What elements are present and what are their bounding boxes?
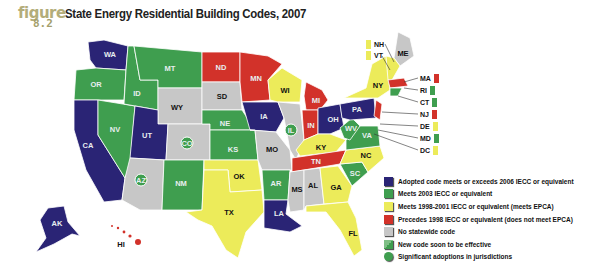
- callout-VT: VT: [366, 51, 383, 60]
- legend-item: Significant adoptions in jurisdictions: [384, 251, 574, 264]
- label-IA: IA: [260, 112, 268, 121]
- callout-MA: MA: [420, 74, 439, 83]
- label-NV: NV: [110, 125, 120, 134]
- label-SC: SC: [350, 169, 361, 178]
- label-HI: HI: [117, 240, 125, 249]
- label-IL: IL: [288, 126, 295, 135]
- swatch-icon: [384, 202, 393, 211]
- legend-item: Meets 1998-2001 IECC or equivalent (meet…: [384, 200, 574, 213]
- state-NY: [344, 56, 390, 98]
- label-AZ: AZ: [136, 176, 146, 185]
- callout-DE: DE: [420, 122, 438, 131]
- state-AK: [36, 206, 80, 252]
- label-WV: WV: [345, 124, 357, 133]
- label-FL: FL: [348, 229, 358, 238]
- label-MS: MS: [291, 185, 302, 194]
- callout-DC: DC: [420, 146, 438, 155]
- label-PA: PA: [352, 105, 362, 114]
- label-OH: OH: [327, 115, 338, 124]
- label-UT: UT: [142, 131, 152, 140]
- label-WA: WA: [104, 50, 117, 59]
- label-MO: MO: [266, 145, 278, 154]
- label-MN: MN: [250, 74, 262, 83]
- label-KY: KY: [316, 143, 326, 152]
- callout-MD: MD: [420, 134, 439, 143]
- state-CT-RI: [390, 88, 402, 96]
- legend-item: No statewide code: [384, 225, 574, 238]
- label-AR: AR: [271, 179, 282, 188]
- label-GA: GA: [330, 183, 342, 192]
- label-WY: WY: [171, 103, 183, 112]
- label-MT: MT: [165, 64, 176, 73]
- state-MA: [388, 78, 408, 88]
- swatch-icon: [384, 189, 393, 198]
- state-NJ: [374, 100, 382, 120]
- label-SD: SD: [217, 92, 228, 101]
- legend-item: Adopted code meets or exceeds 2006 IECC …: [384, 175, 574, 188]
- label-VA: VA: [362, 131, 372, 140]
- label-NE: NE: [220, 119, 230, 128]
- label-NY: NY: [373, 81, 383, 90]
- label-TN: TN: [311, 157, 321, 166]
- callout-CT: CT: [420, 98, 437, 107]
- callout-RI: RI: [420, 86, 435, 95]
- callout-NH: NH: [366, 40, 384, 49]
- label-NM: NM: [175, 179, 187, 188]
- label-OK: OK: [233, 172, 245, 181]
- label-AL: AL: [308, 181, 318, 190]
- label-IN: IN: [307, 121, 315, 130]
- label-KS: KS: [228, 145, 238, 154]
- label-ID: ID: [133, 89, 141, 98]
- label-AK: AK: [52, 219, 63, 228]
- legend-item: Meets 2003 IECC or equivalent: [384, 188, 574, 201]
- state-HI: [111, 225, 141, 245]
- legend-item: New code soon to be effective: [384, 238, 574, 251]
- swatch-icon: [384, 177, 393, 186]
- label-LA: LA: [274, 209, 285, 218]
- label-WI: WI: [280, 86, 289, 95]
- label-NC: NC: [361, 151, 372, 160]
- swatch-icon: [384, 227, 393, 236]
- label-ND: ND: [216, 63, 227, 72]
- label-CA: CA: [83, 141, 94, 150]
- label-OR: OR: [90, 80, 102, 89]
- label-ME: ME: [397, 49, 408, 58]
- callout-NJ: NJ: [420, 110, 437, 119]
- legend-item: Precedes 1998 IECC or equivalent (does n…: [384, 213, 574, 226]
- label-CO: CO: [181, 139, 192, 148]
- circle-swatch-icon: [384, 252, 393, 261]
- legend: Adopted code meets or exceeds 2006 IECC …: [384, 175, 574, 263]
- label-TX: TX: [224, 208, 234, 217]
- split-swatch-icon: [384, 240, 393, 249]
- swatch-icon: [384, 215, 393, 224]
- label-MI: MI: [312, 96, 320, 105]
